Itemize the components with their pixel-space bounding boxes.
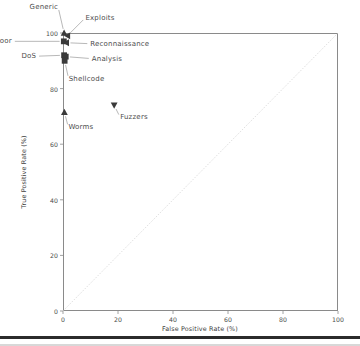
y-tick-label: 80 — [41, 85, 58, 92]
point-label-dos: DoS — [21, 52, 36, 60]
x-tick-label: 60 — [224, 316, 232, 323]
bottom-separator-rule — [0, 336, 360, 339]
point-label-exploits: Exploits — [85, 14, 114, 22]
point-label-worms: Worms — [68, 123, 93, 131]
x-axis-title: False Positive Rate (%) — [162, 325, 238, 333]
x-tick-label: 40 — [169, 316, 177, 323]
point-label-shellcode: Shellcode — [69, 75, 105, 83]
point-label-backdoor: Backdoor — [0, 37, 12, 45]
y-axis-title: True Positive Rate (%) — [20, 135, 28, 208]
x-tick-label: 100 — [332, 316, 344, 323]
point-label-generic: Generic — [30, 3, 59, 11]
x-tick-label: 80 — [279, 316, 287, 323]
y-tick-label: 100 — [41, 30, 58, 37]
y-tick-label: 60 — [41, 141, 58, 148]
y-tick-label: 40 — [41, 196, 58, 203]
point-label-analysis: Analysis — [92, 55, 122, 63]
x-tick-label: 20 — [114, 316, 122, 323]
point-label-reconnaissance: Reconnaissance — [90, 40, 149, 48]
y-tick-label: 20 — [41, 252, 58, 259]
point-label-fuzzers: Fuzzers — [120, 113, 148, 121]
y-tick-label: 0 — [41, 308, 58, 315]
x-tick-label: 0 — [61, 316, 65, 323]
roc-scatter-figure: 020406080100020406080100 GenericExploits… — [0, 0, 360, 346]
